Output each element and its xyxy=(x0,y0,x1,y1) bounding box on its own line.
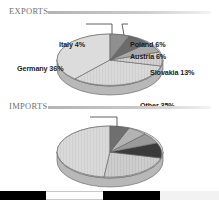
header-rule-imports xyxy=(48,106,211,109)
chart-page: EXPORTS xyxy=(0,0,219,204)
section-title-exports: EXPORTS xyxy=(9,6,48,17)
pie-chart-exports: Italy 4% Poland 6% Austria 6% Slovakia 1… xyxy=(0,18,219,98)
label-exports-slovakia: Slovakia 13% xyxy=(150,68,194,77)
bottom-bar-segment-dark-left xyxy=(0,191,46,200)
label-exports-germany: Germany 36% xyxy=(17,64,63,73)
pie-imports-svg xyxy=(0,112,219,190)
label-exports-austria: Austria 6% xyxy=(130,52,166,61)
bottom-bar xyxy=(0,191,219,200)
header-rule-exports xyxy=(48,11,211,14)
section-title-imports: IMPORTS xyxy=(9,101,47,112)
leader-line-imports-austria xyxy=(90,117,117,127)
pie-exports-svg xyxy=(0,18,219,98)
bottom-bar-segment-light-mid xyxy=(46,191,103,200)
leader-line-exports-poland xyxy=(122,24,128,35)
label-exports-italy: Italy 4% xyxy=(59,40,85,49)
pie-chart-imports: Austria 4% Italy 5% Russia 7% Slovakia 8… xyxy=(0,112,219,190)
label-exports-poland: Poland 6% xyxy=(130,40,165,49)
leader-line-exports-italy xyxy=(86,24,112,34)
bottom-bar-segment-pale-end xyxy=(160,191,219,200)
bottom-bar-segment-dark-right xyxy=(103,191,160,200)
